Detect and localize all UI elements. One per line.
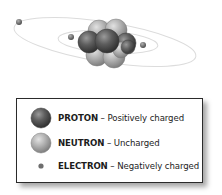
legend-item-neutron: NEUTRON – Uncharged <box>17 132 202 154</box>
legend-label-electron: ELECTRON – Negatively charged <box>58 161 199 171</box>
legend-term: PROTON <box>58 113 98 123</box>
nucleus <box>78 19 136 68</box>
legend-label-neutron: NEUTRON – Uncharged <box>58 138 160 148</box>
legend-description: Positively charged <box>107 113 184 123</box>
legend-separator: – <box>104 138 113 148</box>
legend-box: PROTON – Positively charged NEUTRON – Un… <box>16 98 203 183</box>
legend-label-proton: PROTON – Positively charged <box>58 113 184 123</box>
legend-item-proton: PROTON – Positively charged <box>17 107 202 129</box>
atom-diagram <box>0 0 222 92</box>
electron-dot <box>68 34 74 40</box>
neutron-sphere-icon <box>30 132 52 154</box>
legend-term: ELECTRON <box>58 161 108 171</box>
electron-dot <box>16 19 22 25</box>
legend-separator: – <box>108 161 117 171</box>
electron-dot-icon <box>30 155 52 177</box>
legend-term: NEUTRON <box>58 138 104 148</box>
proton-sphere <box>95 29 119 53</box>
proton-sphere <box>121 40 135 54</box>
proton-sphere-icon <box>30 107 52 129</box>
electron-dot <box>140 42 146 48</box>
legend-description: Negatively charged <box>117 161 199 171</box>
legend-item-electron: ELECTRON – Negatively charged <box>17 155 202 177</box>
legend-description: Uncharged <box>114 138 160 148</box>
